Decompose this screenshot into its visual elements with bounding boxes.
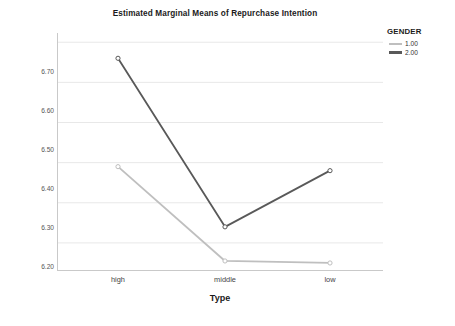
y-tick-label: 6.60	[28, 107, 54, 114]
legend-swatch-icon	[389, 51, 402, 54]
legend-label: 1.00	[405, 40, 418, 47]
legend-item-1[interactable]: 1.00	[389, 40, 455, 47]
series-lines	[116, 56, 332, 265]
y-tick-label: 6.50	[28, 146, 54, 153]
axis-lines	[57, 33, 383, 271]
plot-area	[57, 33, 383, 271]
x-tick-label-low: low	[324, 275, 335, 284]
gridlines	[57, 42, 383, 243]
y-tick-label: 6.70	[28, 68, 54, 75]
legend-label: 2.00	[405, 49, 418, 56]
y-tick-label: 6.20	[28, 263, 54, 270]
x-tick-label-middle: middle	[214, 275, 236, 284]
chart-container: Estimated Marginal Means of Repurchase I…	[0, 0, 455, 326]
x-axis-tick-labels: high middle low	[57, 273, 383, 289]
chart-title: Estimated Marginal Means of Repurchase I…	[0, 9, 430, 18]
y-tick-label: 6.30	[28, 224, 54, 231]
legend-item-2[interactable]: 2.00	[389, 49, 455, 56]
y-tick-label: 6.40	[28, 185, 54, 192]
plot-svg	[57, 33, 383, 271]
legend-title: GENDER	[387, 27, 455, 36]
x-axis-title: Type	[57, 293, 383, 303]
x-tick-label-high: high	[111, 275, 125, 284]
legend-swatch-icon	[389, 43, 402, 45]
legend: GENDER 1.00 2.00	[383, 27, 455, 58]
y-axis-tick-labels: 6.70 6.60 6.50 6.40 6.30 6.20	[24, 33, 54, 271]
